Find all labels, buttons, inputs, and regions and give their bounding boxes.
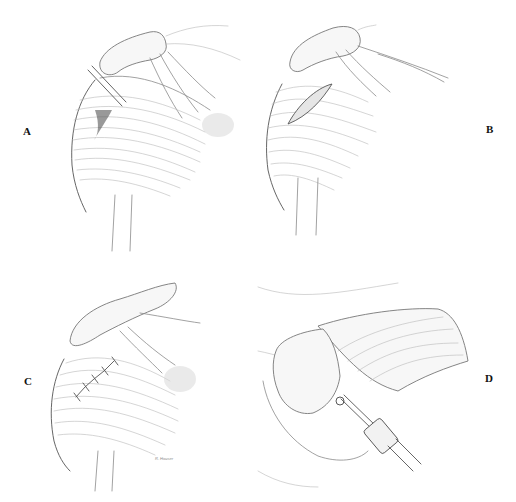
panel-d-illustration — [258, 251, 516, 502]
panel-a-illustration — [0, 0, 258, 251]
panel-b: B — [258, 0, 516, 251]
panel-c: C R. Houser — [0, 251, 258, 502]
panel-c-illustration — [0, 251, 258, 502]
panel-b-illustration — [258, 0, 516, 251]
panel-label-b: B — [486, 123, 493, 135]
panel-d: D — [258, 251, 516, 502]
panel-label-d: D — [485, 372, 493, 384]
artist-signature: R. Houser — [155, 456, 173, 461]
panel-a: A — [0, 0, 258, 251]
panel-label-c: C — [24, 375, 32, 387]
panel-label-a: A — [23, 125, 31, 137]
